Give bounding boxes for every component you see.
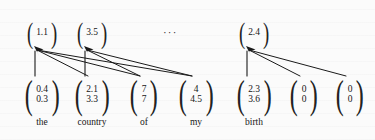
right-paren-icon: ) <box>51 18 57 48</box>
bottom-row-vector: (77) <box>124 77 164 113</box>
left-paren-icon: ( <box>237 75 245 115</box>
bottom-row-vector: (00) <box>284 77 324 113</box>
left-paren-icon: ( <box>179 75 187 115</box>
vector-value: 0 <box>348 95 353 105</box>
left-paren-icon: ( <box>239 18 245 48</box>
vector-values: 0.40.3 <box>35 85 49 104</box>
right-paren-icon: ) <box>263 75 271 115</box>
right-paren-icon: ) <box>51 75 59 115</box>
top-row-vector: (2.4) <box>234 16 274 50</box>
right-paren-icon: ) <box>263 18 269 48</box>
word-label: birth <box>234 117 274 127</box>
vector-values: 77 <box>141 85 148 104</box>
vector-value: 0 <box>302 95 307 105</box>
bottom-row-vector: (2.13.3) <box>72 77 112 113</box>
vector-value: 4.5 <box>190 95 202 105</box>
left-paren-icon: ( <box>130 75 138 115</box>
vector-value: 0.3 <box>36 95 48 105</box>
bottom-row-vector: (2.33.6) <box>234 77 274 113</box>
embedding-aggregation-figure: (1.1)(3.5)(2.4)(0.40.3)the(2.13.3)countr… <box>0 0 375 140</box>
right-paren-icon: ) <box>205 75 213 115</box>
left-paren-icon: ( <box>75 75 83 115</box>
vector-values: 00 <box>347 85 354 104</box>
right-paren-icon: ) <box>310 75 318 115</box>
left-paren-icon: ( <box>27 18 33 48</box>
vector-value: 1.1 <box>36 28 48 38</box>
vector-value: 2.4 <box>248 28 260 38</box>
right-paren-icon: ) <box>101 18 107 48</box>
left-paren-icon: ( <box>336 75 344 115</box>
vector-values: 00 <box>301 85 308 104</box>
right-paren-icon: ) <box>150 75 158 115</box>
bottom-row-vector: (0.40.3) <box>22 77 62 113</box>
vector-values: 2.4 <box>247 28 261 38</box>
vector-values: 3.5 <box>85 28 99 38</box>
vector-values: 44.5 <box>189 85 203 104</box>
bottom-row-vector: (00) <box>330 77 370 113</box>
right-paren-icon: ) <box>101 75 109 115</box>
vector-value: 3.6 <box>248 95 260 105</box>
word-label: of <box>124 117 164 127</box>
vector-values: 2.13.3 <box>85 85 99 104</box>
word-label: the <box>22 117 62 127</box>
right-paren-icon: ) <box>356 75 364 115</box>
word-label: my <box>176 117 216 127</box>
vector-value: 3.3 <box>86 95 98 105</box>
word-label: country <box>72 117 112 127</box>
vector-values: 2.33.6 <box>247 85 261 104</box>
bottom-row-vector: (44.5) <box>176 77 216 113</box>
top-row-vector: (3.5) <box>72 16 112 50</box>
vector-values: 1.1 <box>35 28 49 38</box>
vector-value: 7 <box>142 95 147 105</box>
ellipsis-label: ··· <box>163 26 178 38</box>
top-row-vector: (1.1) <box>22 16 62 50</box>
left-paren-icon: ( <box>77 18 83 48</box>
left-paren-icon: ( <box>25 75 33 115</box>
vector-value: 3.5 <box>86 28 98 38</box>
left-paren-icon: ( <box>290 75 298 115</box>
